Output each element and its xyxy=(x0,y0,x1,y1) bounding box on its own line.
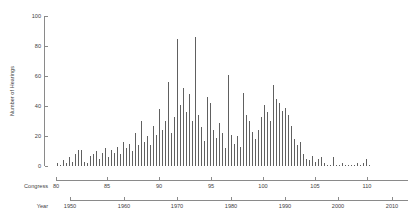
bar xyxy=(258,130,259,166)
bar xyxy=(141,121,142,166)
bar xyxy=(291,126,292,167)
congress-axis-tick xyxy=(56,177,57,180)
bar xyxy=(297,145,298,166)
congress-axis-tick-label: 100 xyxy=(251,183,275,190)
y-axis-title: Number of Hearings xyxy=(6,16,18,166)
year-axis-tick-label: 1970 xyxy=(163,203,191,210)
year-axis-tick xyxy=(392,197,393,200)
bar xyxy=(162,130,163,166)
bar xyxy=(192,121,193,166)
year-axis-tick xyxy=(285,197,286,200)
bar xyxy=(138,145,139,166)
congress-axis-line xyxy=(56,180,408,181)
bar xyxy=(273,85,274,166)
year-axis-label: Year xyxy=(4,203,48,210)
year-axis-tick xyxy=(177,197,178,200)
year-axis-tick-label: 1980 xyxy=(217,203,245,210)
bar xyxy=(207,97,208,166)
year-axis-tick xyxy=(70,197,71,200)
congress-axis-tick xyxy=(315,177,316,180)
bar xyxy=(252,132,253,167)
bar xyxy=(153,126,154,167)
bar xyxy=(249,121,250,166)
bar xyxy=(366,159,367,167)
bar xyxy=(69,157,70,166)
bar xyxy=(105,148,106,166)
bar xyxy=(321,157,322,166)
bar xyxy=(318,159,319,167)
bar xyxy=(216,138,217,167)
bar xyxy=(198,115,199,166)
bar xyxy=(60,165,61,167)
bar xyxy=(264,105,265,167)
bar xyxy=(267,112,268,166)
bar xyxy=(339,165,340,167)
y-axis-line xyxy=(44,16,45,166)
congress-axis-tick xyxy=(107,177,108,180)
bar xyxy=(213,130,214,166)
bar xyxy=(306,159,307,167)
bar xyxy=(270,121,271,166)
bar xyxy=(345,165,346,167)
bar xyxy=(168,82,169,166)
bar xyxy=(312,156,313,167)
bar xyxy=(246,115,247,166)
bar xyxy=(87,163,88,166)
bar xyxy=(360,165,361,167)
bar xyxy=(309,160,310,166)
bar xyxy=(276,99,277,167)
bar xyxy=(354,165,355,167)
bar xyxy=(222,133,223,166)
bar xyxy=(300,142,301,166)
bar xyxy=(327,165,328,167)
bar xyxy=(282,111,283,167)
bar xyxy=(363,163,364,166)
bar xyxy=(219,123,220,167)
bar xyxy=(324,163,325,166)
hearings-histogram-chart: Number of Hearings 100806040200 80859095… xyxy=(0,0,414,224)
bar xyxy=(165,121,166,166)
y-axis-tick-label: 20 xyxy=(11,133,41,139)
congress-axis-tick-label: 85 xyxy=(95,183,119,190)
year-axis-tick-label: 2010 xyxy=(378,203,406,210)
bar xyxy=(183,88,184,166)
bar xyxy=(174,117,175,167)
bar xyxy=(348,165,349,167)
bar xyxy=(132,151,133,166)
y-axis-tick-label: 100 xyxy=(11,13,41,19)
y-axis-tick-label: 80 xyxy=(11,43,41,49)
bar xyxy=(210,103,211,166)
bar xyxy=(285,108,286,167)
bar xyxy=(81,150,82,167)
bar xyxy=(93,154,94,166)
bar xyxy=(102,153,103,167)
congress-axis-tick xyxy=(367,177,368,180)
bar xyxy=(204,141,205,167)
bar xyxy=(126,148,127,166)
bar xyxy=(234,144,235,167)
bar xyxy=(117,147,118,167)
bar xyxy=(99,159,100,167)
bar xyxy=(294,139,295,166)
bar xyxy=(96,151,97,166)
bar xyxy=(123,142,124,166)
year-axis-tick xyxy=(231,197,232,200)
bar xyxy=(357,163,358,166)
congress-axis-tick xyxy=(211,177,212,180)
congress-axis-tick-label: 90 xyxy=(147,183,171,190)
congress-axis-tick xyxy=(159,177,160,180)
bar xyxy=(72,162,73,167)
y-axis-tick-label: 40 xyxy=(11,103,41,109)
bar xyxy=(108,157,109,166)
bar xyxy=(147,136,148,166)
year-axis-tick-label: 1990 xyxy=(271,203,299,210)
bar xyxy=(63,160,64,166)
bar xyxy=(120,154,121,166)
bar xyxy=(315,162,316,167)
year-axis-tick-label: 2000 xyxy=(324,203,352,210)
bar xyxy=(261,117,262,167)
congress-axis-tick-label: 110 xyxy=(355,183,379,190)
bar xyxy=(342,163,343,166)
bar xyxy=(303,154,304,166)
bar xyxy=(351,165,352,167)
